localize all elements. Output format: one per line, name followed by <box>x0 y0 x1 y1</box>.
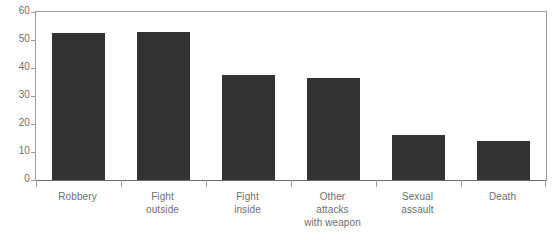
y-tick-label-0: 0 <box>4 174 30 184</box>
bar-fight-outside[interactable] <box>137 32 190 180</box>
x-label-fight-outside: Fightoutside <box>120 190 205 216</box>
plot-area <box>35 11 547 181</box>
bars-layer <box>36 12 546 180</box>
bar-other-attacks-with-weapon[interactable] <box>307 78 360 180</box>
x-label-line: Robbery <box>35 190 120 203</box>
x-tick-mark-6 <box>545 180 546 187</box>
bar-robbery[interactable] <box>52 33 105 180</box>
x-tick-mark-1 <box>121 180 122 187</box>
x-label-line: Sexual <box>375 190 460 203</box>
x-label-line: with weapon <box>290 216 375 229</box>
x-label-fight-inside: Fightinside <box>205 190 290 216</box>
y-tick-label-50: 50 <box>4 34 30 44</box>
y-tick-label-20: 20 <box>4 118 30 128</box>
x-label-line: outside <box>120 203 205 216</box>
bar-chart: 60 50 40 30 20 10 0 <box>0 0 553 240</box>
x-label-line: Other <box>290 190 375 203</box>
x-tick-mark-4 <box>376 180 377 187</box>
y-tick-label-40: 40 <box>4 62 30 72</box>
x-tick-mark-3 <box>291 180 292 187</box>
bar-fight-inside[interactable] <box>222 75 275 180</box>
x-label-other-attacks-with-weapon: Otherattackswith weapon <box>290 190 375 229</box>
y-axis: 60 50 40 30 20 10 0 <box>0 0 30 240</box>
x-label-line: Fight <box>205 190 290 203</box>
x-label-death: Death <box>460 190 545 203</box>
y-tick-label-60: 60 <box>4 6 30 16</box>
x-label-line: assault <box>375 203 460 216</box>
x-tick-mark-5 <box>461 180 462 187</box>
x-label-line: Fight <box>120 190 205 203</box>
x-label-sexual-assault: Sexualassault <box>375 190 460 216</box>
y-tick-label-30: 30 <box>4 90 30 100</box>
x-axis: Robbery Fightoutside Fightinside Otherat… <box>35 190 545 238</box>
x-label-robbery: Robbery <box>35 190 120 203</box>
x-label-line: inside <box>205 203 290 216</box>
bar-sexual-assault[interactable] <box>392 135 445 180</box>
x-tick-mark-0 <box>36 180 37 187</box>
bar-death[interactable] <box>477 141 530 180</box>
x-label-line: attacks <box>290 203 375 216</box>
x-tick-mark-2 <box>206 180 207 187</box>
y-tick-label-10: 10 <box>4 146 30 156</box>
x-label-line: Death <box>460 190 545 203</box>
